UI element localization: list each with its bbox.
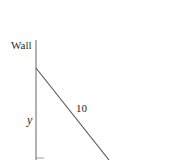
ladder-line xyxy=(36,68,109,160)
ladder-length-label: 10 xyxy=(76,103,87,114)
ladder-diagram: Wall y 10 xyxy=(0,0,171,160)
wall-label: Wall xyxy=(11,40,32,51)
height-label: y xyxy=(27,114,32,126)
diagram-lines xyxy=(0,0,171,160)
